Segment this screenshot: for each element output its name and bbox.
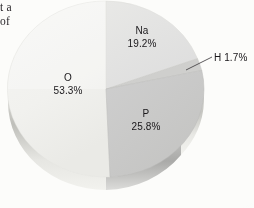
- pie-label-o-name: O: [40, 72, 96, 85]
- pie-chart: O 53.3% Na 19.2% P 25.8% H 1.7%: [0, 0, 254, 208]
- pie-label-na-percent: 19.2%: [118, 38, 166, 51]
- scanned-page: t a of: [0, 0, 254, 208]
- pie-label-p-name: P: [122, 108, 170, 121]
- pie-label-o: O 53.3%: [40, 72, 96, 97]
- pie-label-p-percent: 25.8%: [122, 121, 170, 134]
- pie-label-h: H 1.7%: [214, 52, 247, 63]
- pie-label-na-name: Na: [118, 25, 166, 38]
- pie-label-o-percent: 53.3%: [40, 85, 96, 98]
- pie-label-p: P 25.8%: [122, 108, 170, 133]
- pie-label-na: Na 19.2%: [118, 25, 166, 50]
